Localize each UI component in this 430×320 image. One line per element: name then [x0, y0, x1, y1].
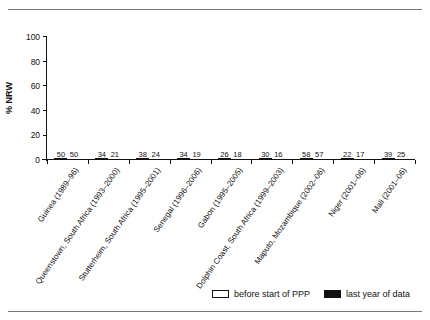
bar-group: 3016 — [251, 37, 292, 160]
bar-pair: 2217 — [341, 37, 367, 160]
bar-group: 3419 — [170, 37, 211, 160]
chart-legend: before start of PPPlast year of data — [212, 289, 410, 299]
bar-group: 3824 — [129, 37, 170, 160]
legend-label: last year of data — [346, 289, 410, 299]
bar-value-label: 50 — [57, 150, 65, 159]
bar-group: 5857 — [292, 37, 333, 160]
x-axis-tick — [47, 160, 48, 164]
bar-pair: 3925 — [382, 37, 408, 160]
y-tick-20: 20 — [31, 130, 47, 140]
bar-value-label: 50 — [70, 150, 78, 159]
x-axis-label: Guinea (1989–96) — [36, 166, 80, 224]
x-axis-label: Mali (2001–06) — [370, 166, 408, 215]
bar-value-label: 26 — [220, 150, 228, 159]
bar-value-label: 17 — [356, 150, 364, 159]
bar-value-label: 57 — [315, 150, 323, 159]
y-tick-80: 80 — [31, 57, 47, 67]
x-axis-label: Gabon (1995–2005) — [196, 166, 244, 230]
x-axis-tick — [415, 160, 416, 164]
x-axis-tick — [251, 160, 252, 164]
bar-value-label: 24 — [152, 150, 160, 159]
bar-value-label: 18 — [233, 150, 241, 159]
top-divider-rule — [8, 9, 422, 10]
bar-pair: 2618 — [218, 37, 244, 160]
x-axis-label: Stutterheim, South Africa (1995–2001) — [77, 166, 162, 283]
legend-item[interactable]: last year of data — [324, 289, 410, 299]
y-tick-100: 100 — [26, 32, 47, 42]
bar-pair: 3016 — [259, 37, 285, 160]
y-tick-60: 60 — [31, 81, 47, 91]
plot-area: 100 80 60 40 20 0 5050342138243419261830… — [47, 37, 415, 160]
bar-pair: 5857 — [300, 37, 326, 160]
x-axis-tick — [374, 160, 375, 164]
x-axis-tick — [211, 160, 212, 164]
x-axis-tick — [292, 160, 293, 164]
bar-value-label: 34 — [98, 150, 106, 159]
x-axis-label: Queenstown, South Africa (1993–2000) — [34, 166, 122, 286]
bar-group: 2217 — [333, 37, 374, 160]
bar-group: 5050 — [47, 37, 88, 160]
bar-value-label: 38 — [139, 150, 147, 159]
bar-value-label: 19 — [192, 150, 200, 159]
bar-value-label: 22 — [343, 150, 351, 159]
bar-pair: 3421 — [95, 37, 121, 160]
bar-value-label: 34 — [179, 150, 187, 159]
bar-pair: 3824 — [136, 37, 162, 160]
x-axis-tick — [88, 160, 89, 164]
x-axis-label: Maputo, Mozambique (2002–06) — [252, 166, 326, 266]
x-axis-tick — [333, 160, 334, 164]
legend-swatch-white — [212, 290, 229, 298]
bar-value-label: 39 — [384, 150, 392, 159]
bar-chart-figure: % NRW 100 80 60 40 20 0 5050342138243419… — [0, 12, 430, 308]
bottom-divider-rule — [8, 311, 422, 312]
bar-group: 3925 — [374, 37, 415, 160]
x-axis-label: Dolphin Coast, South Africa (1999–2003) — [194, 166, 285, 290]
y-tick-40: 40 — [31, 106, 47, 116]
bar-pair: 3419 — [177, 37, 203, 160]
bar-value-label: 16 — [274, 150, 282, 159]
legend-item[interactable]: before start of PPP — [212, 289, 310, 299]
x-axis-tick — [170, 160, 171, 164]
x-axis-tick — [129, 160, 130, 164]
bar-group: 3421 — [88, 37, 129, 160]
legend-label: before start of PPP — [234, 289, 310, 299]
y-tick-0: 0 — [35, 155, 47, 165]
x-axis-label: Niger (2001–06) — [326, 166, 367, 219]
bar-value-label: 25 — [397, 150, 405, 159]
legend-swatch-black — [324, 290, 341, 298]
y-axis-title: % NRW — [4, 82, 14, 114]
bar-value-label: 58 — [302, 150, 310, 159]
bar-group: 2618 — [211, 37, 252, 160]
bar-value-label: 21 — [111, 150, 119, 159]
bar-pair: 5050 — [54, 37, 80, 160]
bar-value-label: 30 — [261, 150, 269, 159]
